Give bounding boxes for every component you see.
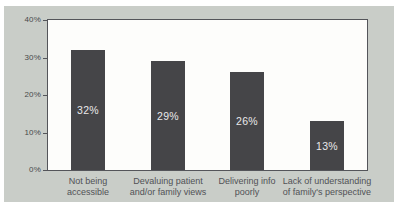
y-axis-tick-label: 40%: [4, 15, 41, 25]
bar-value-label: 13%: [316, 140, 338, 152]
bar: 26%: [230, 72, 264, 170]
y-axis-tick-mark: [43, 133, 47, 134]
bar: 29%: [151, 61, 185, 170]
bar-value-label: 29%: [157, 110, 179, 122]
bar: 32%: [71, 50, 105, 170]
y-axis-tick-label: 0%: [4, 165, 41, 175]
y-axis-tick-mark: [43, 170, 47, 171]
y-axis-tick-mark: [43, 20, 47, 21]
bar-value-label: 26%: [236, 115, 258, 127]
bar: 13%: [310, 121, 344, 170]
plot-area: 32%29%26%13%: [47, 19, 368, 171]
category-label: Lack of understanding of family's perspe…: [267, 176, 387, 198]
y-axis-tick-label: 30%: [4, 53, 41, 63]
page: 32%29%26%13% 0%10%20%30%40% Not being ac…: [0, 0, 398, 213]
y-axis-tick-label: 20%: [4, 90, 41, 100]
chart-card: 32%29%26%13% 0%10%20%30%40% Not being ac…: [4, 6, 394, 202]
y-axis-tick-mark: [43, 95, 47, 96]
y-axis-tick-mark: [43, 58, 47, 59]
bar-value-label: 32%: [77, 104, 99, 116]
y-axis-tick-label: 10%: [4, 128, 41, 138]
